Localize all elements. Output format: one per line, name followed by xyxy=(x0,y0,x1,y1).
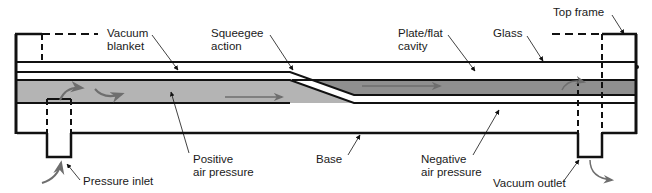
vacuum-outlet-port xyxy=(578,62,639,157)
label-line: Positive xyxy=(193,153,254,166)
label-line: blanket xyxy=(107,40,148,53)
base xyxy=(17,103,637,133)
label-base: Base xyxy=(316,153,342,166)
label-top-frame: Top frame xyxy=(553,6,604,19)
label-line: air pressure xyxy=(421,166,482,179)
label-line: cavity xyxy=(398,40,443,53)
label-vacuum-outlet: Vacuum outlet xyxy=(493,177,566,190)
label-squeegee-action: Squeegee action xyxy=(211,27,263,53)
label-pressure-inlet: Pressure inlet xyxy=(83,175,153,188)
label-line: Vacuum xyxy=(107,27,148,40)
label-line: Negative xyxy=(421,153,482,166)
label-vacuum-blanket: Vacuum blanket xyxy=(107,27,148,53)
label-line: Plate/flat xyxy=(398,27,443,40)
pressure-inlet-port xyxy=(47,99,71,157)
label-glass: Glass xyxy=(493,27,522,40)
label-line: action xyxy=(211,40,263,53)
label-plate-cavity: Plate/flat cavity xyxy=(398,27,443,53)
label-line: air pressure xyxy=(193,166,254,179)
label-negative-air-pressure: Negative air pressure xyxy=(421,153,482,179)
label-positive-air-pressure: Positive air pressure xyxy=(193,153,254,179)
label-line: Squeegee xyxy=(211,27,263,40)
